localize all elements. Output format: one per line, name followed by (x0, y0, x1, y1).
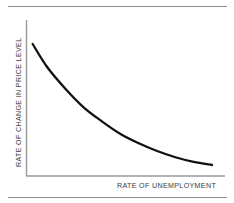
phillips-curve-line (33, 44, 212, 165)
x-axis-label: RATE OF UNEMPLOYMENT (117, 182, 216, 190)
phillips-curve-figure: RATE OF CHANGE IN PRICE LEVEL RATE OF UN… (0, 0, 234, 203)
y-axis-label: RATE OF CHANGE IN PRICE LEVEL (15, 17, 27, 167)
plot-area (0, 0, 234, 203)
bottom-divider-rule (8, 197, 227, 198)
